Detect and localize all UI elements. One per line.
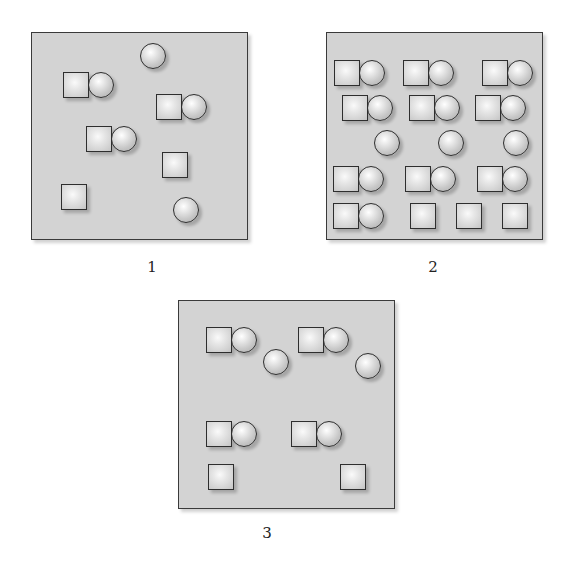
square-icon [403,60,429,86]
square-icon [298,327,324,353]
circle-icon [316,421,342,447]
circle-icon [500,95,526,121]
square-icon [334,60,360,86]
square-icon [502,203,528,229]
circle-icon [374,130,400,156]
square-icon [206,421,232,447]
square-icon [342,95,368,121]
circle-icon [355,353,381,379]
circle-icon [503,130,529,156]
square-icon [206,327,232,353]
panel-1-label: 1 [132,258,172,276]
circle-icon [88,72,114,98]
square-icon [456,203,482,229]
circle-icon [507,60,533,86]
panel-3-label: 3 [247,524,287,542]
circle-icon [111,126,137,152]
square-icon [162,152,188,178]
square-icon [477,166,503,192]
square-icon [475,95,501,121]
square-icon [409,95,435,121]
circle-icon [231,327,257,353]
square-icon [405,166,431,192]
circle-icon [428,60,454,86]
circle-icon [367,95,393,121]
circle-icon [430,166,456,192]
square-icon [340,464,366,490]
square-icon [333,166,359,192]
square-icon [63,72,89,98]
circle-icon [359,60,385,86]
circle-icon [263,349,289,375]
square-icon [291,421,317,447]
circle-icon [438,130,464,156]
circle-icon [231,421,257,447]
square-icon [208,464,234,490]
circle-icon [173,197,199,223]
square-icon [410,203,436,229]
square-icon [86,126,112,152]
square-icon [156,94,182,120]
square-icon [61,184,87,210]
square-icon [333,203,359,229]
circle-icon [358,166,384,192]
circle-icon [323,327,349,353]
circle-icon [181,94,207,120]
circle-icon [502,166,528,192]
circle-icon [358,203,384,229]
circle-icon [434,95,460,121]
square-icon [482,60,508,86]
panel-2-label: 2 [413,258,453,276]
circle-icon [140,43,166,69]
